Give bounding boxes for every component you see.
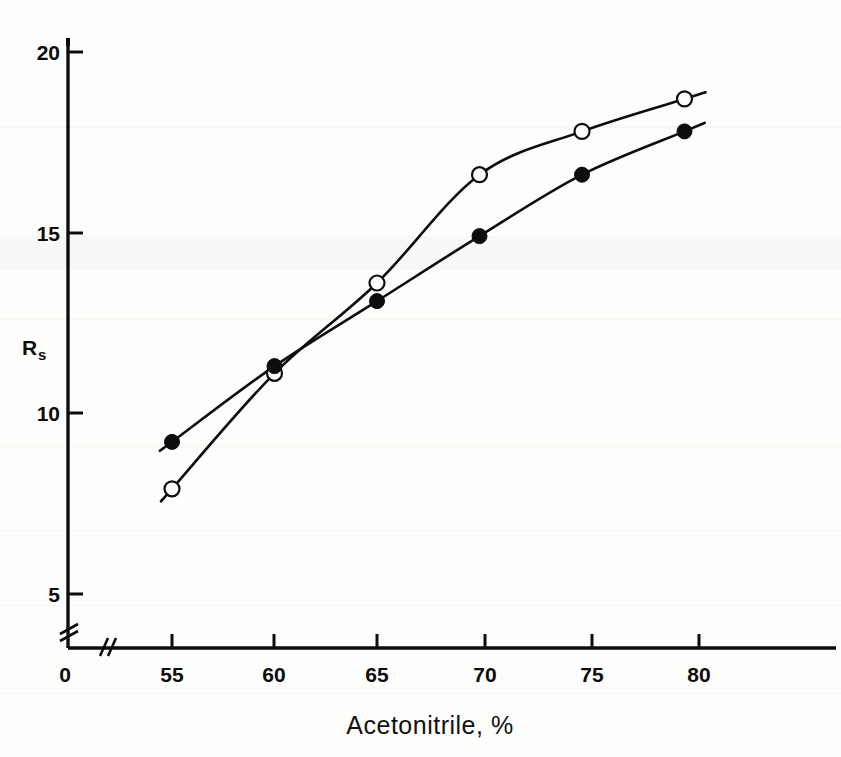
x-tick-label-55: 55	[160, 663, 184, 686]
data-point-open	[370, 276, 385, 291]
y-tick-label-20: 20	[37, 41, 60, 64]
figure-page: 20 15 10 5 R s 0 55 60 65 70 75 8	[0, 0, 841, 757]
x-tick-label-60: 60	[262, 663, 285, 686]
x-tick-label-70: 70	[473, 663, 496, 686]
data-point-filled	[472, 229, 487, 244]
data-point-open	[472, 167, 487, 182]
data-point-filled	[267, 359, 282, 374]
x-tick-label-80: 80	[687, 663, 710, 686]
y-axis-title: R	[22, 336, 37, 359]
x-origin-label: 0	[59, 663, 71, 686]
x-tick-label-65: 65	[365, 663, 389, 686]
data-point-open	[165, 481, 180, 496]
y-tick-label-10: 10	[37, 402, 60, 425]
data-point-open	[575, 124, 590, 139]
data-point-filled	[575, 167, 590, 182]
x-axis-caption: Acetonitrile, %	[346, 711, 513, 739]
markers-open-circle-series	[165, 91, 693, 496]
y-axis-title-subscript: s	[38, 346, 46, 363]
data-point-filled	[370, 294, 385, 309]
y-tick-label-5: 5	[48, 583, 60, 606]
x-tick-label-75: 75	[580, 663, 604, 686]
data-point-filled	[677, 124, 692, 139]
curve-open-circle-series	[161, 92, 706, 501]
data-point-filled	[165, 434, 180, 449]
y-tick-label-15: 15	[37, 222, 61, 245]
curve-filled-circle-series	[160, 123, 705, 451]
scatter-line-plot: 20 15 10 5 R s 0 55 60 65 70 75 8	[0, 0, 841, 757]
markers-filled-circle-series	[165, 124, 693, 450]
data-point-open	[677, 91, 692, 106]
